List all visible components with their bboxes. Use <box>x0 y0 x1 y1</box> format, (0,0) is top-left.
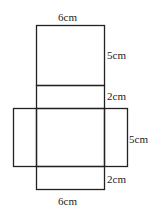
label-bottom-width: 6cm <box>58 196 77 207</box>
cuboid-net <box>0 0 164 215</box>
top-face <box>37 26 105 86</box>
label-top-face-height: 5cm <box>107 50 126 61</box>
center-face <box>37 109 105 167</box>
label-strip-height-2: 2cm <box>107 174 126 185</box>
label-strip-height-1: 2cm <box>107 91 126 102</box>
top-strip <box>37 86 105 109</box>
label-middle-face-height: 5cm <box>129 134 148 145</box>
bottom-strip <box>37 167 105 190</box>
label-top-width: 6cm <box>58 12 77 23</box>
left-side-face <box>14 109 37 167</box>
right-side-face <box>105 109 128 167</box>
